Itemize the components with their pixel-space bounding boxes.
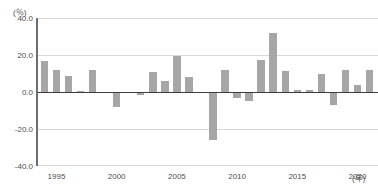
bar	[257, 60, 264, 92]
x-tick-label: 2015	[288, 172, 306, 181]
bar	[269, 33, 276, 92]
gridline-20	[36, 55, 378, 56]
bar	[41, 61, 48, 92]
bar	[209, 92, 216, 140]
gridline-neg40	[36, 165, 378, 166]
y-tick-label: 40.0	[17, 14, 33, 23]
y-tick-label: 20.0	[17, 51, 33, 60]
bar	[354, 85, 361, 92]
bar	[282, 71, 289, 92]
x-tick-label: 2000	[108, 172, 126, 181]
bar	[113, 92, 120, 107]
bar	[330, 92, 337, 105]
gridline-neg20	[36, 129, 378, 130]
bar	[173, 56, 180, 92]
x-tick-label: 2005	[168, 172, 186, 181]
bar	[366, 70, 373, 92]
y-axis-tick-labels: 40.0 20.0 0.0 -20.0 -40.0	[0, 0, 33, 195]
y-tick-label: -20.0	[15, 125, 33, 134]
y-axis-spine	[36, 18, 38, 166]
bar	[342, 70, 349, 92]
y-tick-label: 0.0	[22, 88, 33, 97]
bar	[149, 72, 156, 92]
bar	[53, 70, 60, 92]
bar	[89, 70, 96, 92]
bar	[221, 70, 228, 92]
bar	[161, 81, 168, 92]
bar	[185, 77, 192, 92]
x-axis-unit-label: (年)	[352, 172, 365, 183]
gridline-40	[36, 18, 378, 19]
bar	[318, 74, 325, 92]
x-tick-label: 2010	[228, 172, 246, 181]
y-tick-label: -40.0	[15, 162, 33, 171]
x-tick-label: 1995	[48, 172, 66, 181]
bar	[65, 76, 72, 92]
zero-baseline	[36, 92, 378, 93]
plot-area	[36, 18, 378, 166]
bar-chart: (％) 40.0 20.0 0.0 -20.0 -40.0 1995200020…	[0, 0, 378, 195]
